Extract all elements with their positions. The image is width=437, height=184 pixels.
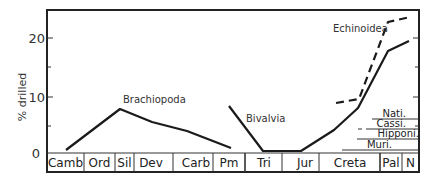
period-sil: Sil — [117, 156, 131, 170]
range-hipponi-label: Hipponi. — [378, 128, 419, 139]
y-tick-label-10: 10 — [28, 90, 45, 105]
plot-frame — [47, 10, 419, 172]
series-brachiopoda-label: Brachiopoda — [123, 94, 186, 105]
period-n: N — [406, 156, 415, 170]
period-tri: Tri — [256, 156, 271, 170]
y-tick-label-20: 20 — [28, 31, 45, 46]
series-bivalvia-label: Bivalvia — [246, 113, 285, 124]
period-labels: Camb Ord Sil Dev Carb Pm Tri Jur Creta P… — [48, 156, 415, 170]
period-pal: Pal — [382, 156, 399, 170]
y-tick-label-0: 0 — [32, 146, 40, 161]
series-brachiopoda-line — [66, 109, 231, 150]
y-axis-title: % drilled — [16, 73, 29, 121]
period-dev: Dev — [139, 156, 163, 170]
period-carb: Carb — [182, 156, 210, 170]
period-pm: Pm — [220, 156, 239, 170]
series-echinoidea-label: Echinoidea — [333, 23, 388, 34]
drilling-frequency-chart: % drilled 0 10 20 Camb Ord Sil Dev Car — [0, 0, 437, 184]
period-creta: Creta — [334, 156, 367, 170]
period-ord: Ord — [89, 156, 111, 170]
range-muri-label: Muri. — [367, 139, 392, 150]
period-jur: Jur — [296, 156, 313, 170]
period-camb: Camb — [48, 156, 83, 170]
